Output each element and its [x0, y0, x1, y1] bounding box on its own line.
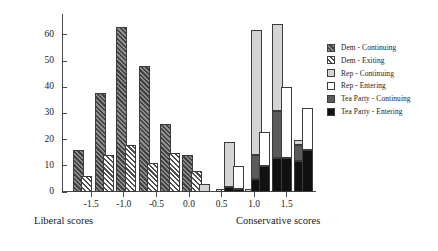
- bar: [169, 153, 180, 192]
- bar: [233, 166, 244, 192]
- legend-label: Dem - Exiting: [341, 56, 385, 65]
- bar-segment: [125, 145, 136, 192]
- y-tick-label: 30: [45, 106, 55, 119]
- bar-segment: [233, 189, 244, 192]
- bar-segment: [199, 184, 210, 192]
- bar: [103, 155, 114, 192]
- bar-segment: [259, 166, 270, 192]
- x-axis-label-liberal: Liberal scores: [34, 214, 93, 228]
- bar: [259, 132, 270, 192]
- legend-swatch-icon: [327, 69, 335, 77]
- bar: [125, 145, 136, 192]
- legend-label: Tea Party - Entering: [341, 107, 403, 116]
- y-tick-label: 0: [49, 185, 54, 198]
- legend-swatch-icon: [327, 108, 335, 116]
- bar: [281, 87, 292, 192]
- bar-series-group: [62, 14, 316, 192]
- bar-segment: [81, 176, 92, 192]
- legend-swatch-icon: [327, 56, 335, 64]
- legend-label: Rep - Continuing: [341, 69, 394, 78]
- legend-swatch-icon: [327, 82, 335, 90]
- legend-label: Dem - Continuing: [341, 43, 396, 52]
- x-tick-label: -0.5: [149, 198, 164, 211]
- legend-label: Rep - Entering: [341, 81, 386, 90]
- legend-label: Tea Party - Continuing: [341, 94, 411, 103]
- bar-segment: [281, 87, 292, 158]
- y-tick-label: 60: [45, 28, 55, 41]
- legend-item: Dem - Exiting: [327, 55, 411, 66]
- x-tick-label: -1.0: [116, 198, 131, 211]
- bar-segment: [302, 150, 313, 192]
- bar: [147, 163, 158, 192]
- plot-area: 0102030405060 -1.5-1.0-0.50.00.51.01.5: [62, 14, 316, 192]
- legend-item: Rep - Continuing: [327, 68, 411, 79]
- bar: [199, 184, 210, 192]
- chart-figure: 0102030405060 -1.5-1.0-0.50.00.51.01.5 L…: [0, 0, 438, 251]
- legend-item: Tea Party - Entering: [327, 106, 411, 117]
- legend-item: Tea Party - Continuing: [327, 93, 411, 104]
- legend-item: Dem - Continuing: [327, 42, 411, 53]
- bar-segment: [147, 163, 158, 192]
- x-tick-label: 1.5: [281, 198, 293, 211]
- legend-swatch-icon: [327, 44, 335, 52]
- x-tick-label: 0.0: [183, 198, 195, 211]
- bar-segment: [259, 132, 270, 166]
- bar: [302, 108, 313, 192]
- y-tick-label: 40: [45, 80, 55, 93]
- bar-segment: [103, 155, 114, 192]
- bar-segment: [281, 158, 292, 192]
- bar: [81, 176, 92, 192]
- legend-item: Rep - Entering: [327, 80, 411, 91]
- y-tick-label: 20: [45, 133, 55, 146]
- bar-segment: [302, 108, 313, 150]
- bar-segment: [169, 153, 180, 192]
- legend-swatch-icon: [327, 95, 335, 103]
- x-axis-label-conservative: Conservative scores: [236, 214, 320, 228]
- y-tick-label: 50: [45, 54, 55, 67]
- x-tick-label: 0.5: [216, 198, 228, 211]
- y-tick-label: 10: [45, 159, 55, 172]
- chart-legend: Dem - ContinuingDem - ExitingRep - Conti…: [327, 42, 411, 119]
- bar-segment: [233, 166, 244, 190]
- x-tick-label: -1.5: [84, 198, 99, 211]
- x-tick-label: 1.0: [248, 198, 260, 211]
